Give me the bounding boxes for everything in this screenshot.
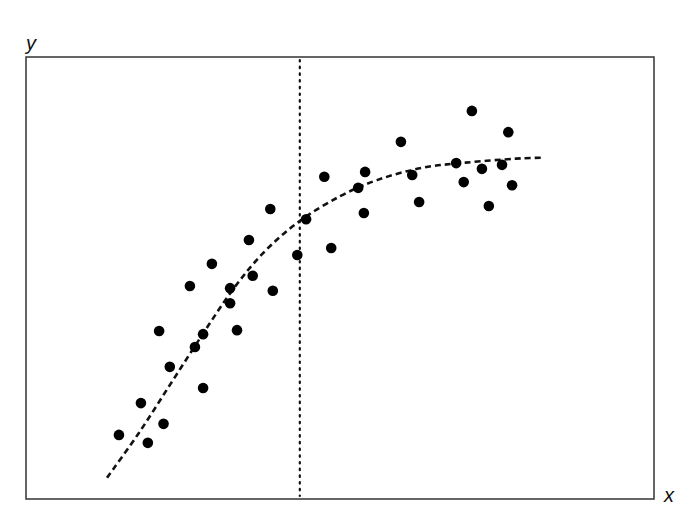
data-point (247, 270, 258, 281)
data-point (407, 170, 418, 181)
data-point (232, 325, 243, 336)
data-point (114, 430, 125, 441)
data-point (225, 283, 236, 294)
data-point (268, 286, 279, 297)
data-point (396, 137, 407, 148)
data-point (507, 180, 518, 191)
data-point (458, 177, 469, 188)
y-axis-label: y (26, 32, 36, 55)
x-axis-label: x (664, 484, 674, 507)
data-point (414, 197, 425, 208)
data-point (451, 158, 462, 169)
data-point (497, 160, 508, 171)
data-point (244, 235, 255, 246)
data-point (154, 326, 165, 337)
data-point (301, 214, 312, 225)
data-point (503, 127, 514, 138)
fit-curve (107, 158, 542, 478)
data-point (265, 204, 276, 215)
data-point (207, 259, 218, 270)
data-point (190, 342, 201, 353)
scatter-plot (0, 0, 696, 519)
data-point (353, 183, 364, 194)
data-point (158, 419, 169, 430)
data-point (467, 106, 478, 117)
data-point (198, 329, 209, 340)
data-point (185, 281, 196, 292)
data-point (165, 362, 176, 373)
data-point (477, 164, 488, 175)
data-point (326, 243, 337, 254)
data-point (143, 438, 154, 449)
data-point (359, 208, 370, 219)
data-point (225, 298, 236, 309)
data-point (198, 383, 209, 394)
data-point (319, 171, 330, 182)
data-point (136, 398, 147, 409)
data-points (114, 106, 518, 449)
data-point (360, 167, 371, 178)
data-point (484, 201, 495, 212)
data-point (292, 250, 303, 261)
